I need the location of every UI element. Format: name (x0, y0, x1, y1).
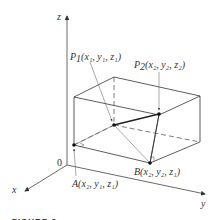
segment-p1-b (114, 125, 150, 163)
point-p2 (157, 112, 161, 116)
leader-p1 (90, 62, 112, 121)
label-b: B(x₂, y₂, z₁) (134, 166, 181, 178)
rectangular-box-diagram: z 0 x y P1(x₁, y₁, z₁) P2(x₂, y₂, z₂) A(… (0, 0, 218, 220)
point-b (148, 161, 152, 165)
segment-p2-b (150, 114, 159, 163)
x-axis-label: x (11, 184, 17, 195)
svg-text:P2(x₂, y₂, z₂): P2(x₂, y₂, z₂) (133, 59, 186, 72)
leader-a (74, 149, 76, 176)
point-a (72, 143, 76, 147)
segment-p1-p2 (114, 114, 159, 125)
x-axis (25, 165, 67, 191)
figure-caption: FIGURE 3 (12, 217, 57, 220)
label-p2: P2(x₂, y₂, z₂) (133, 59, 186, 72)
label-p1: P1(x₁, y₁, z₁) (69, 51, 122, 64)
svg-text:B(x₂, y₂, z₁): B(x₂, y₂, z₁) (134, 166, 181, 178)
point-p1 (112, 123, 116, 127)
z-axis-label: z (56, 11, 61, 22)
y-axis-label: y (200, 198, 206, 209)
segment-p1-a (74, 125, 114, 145)
svg-text:P1(x₁, y₁, z₁): P1(x₁, y₁, z₁) (69, 51, 122, 64)
origin-label: 0 (57, 157, 62, 168)
svg-text:A(x₂, y₁, z₁): A(x₂, y₁, z₁) (71, 178, 119, 190)
label-a: A(x₂, y₁, z₁) (71, 178, 119, 190)
